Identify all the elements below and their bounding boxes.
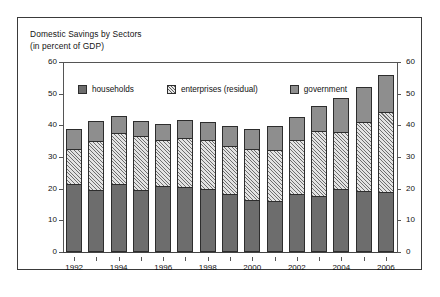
bar-segment-households — [155, 186, 171, 253]
y-axis-tick-right — [397, 62, 401, 63]
bar-2004 — [333, 98, 349, 252]
bar-2005 — [356, 87, 372, 252]
bar-segment-government — [222, 126, 238, 146]
bar-segment-households — [333, 189, 349, 252]
chart-legend: households enterprises (residual) govern… — [78, 85, 347, 94]
x-axis-tick-label: 2000 — [237, 263, 267, 272]
bar-segment-households — [66, 184, 82, 252]
chart-title: Domestic Savings by Sectors — [30, 28, 142, 40]
bar-segment-households — [111, 184, 127, 252]
legend-label-government: government — [304, 85, 347, 94]
bar-segment-government — [333, 98, 349, 132]
bar-1995 — [133, 121, 149, 252]
y-axis-tick-right — [397, 220, 401, 221]
bar-segment-enterprises — [311, 131, 327, 196]
bar-segment-households — [200, 189, 216, 252]
x-axis-tick — [119, 257, 120, 261]
bar-segment-enterprises — [333, 132, 349, 190]
bar-2001 — [267, 126, 283, 252]
y-axis-tick-right — [397, 189, 401, 190]
y-axis-tick-label-right: 20 — [406, 184, 428, 193]
bar-1999 — [222, 126, 238, 252]
x-axis-tick-label: 1992 — [59, 263, 89, 272]
y-axis-tick-label-left: 40 — [35, 120, 57, 129]
x-axis-tick-label: 2002 — [282, 263, 312, 272]
y-axis-tick-label-right: 0 — [406, 247, 428, 256]
bar-segment-government — [289, 117, 305, 140]
bar-2002 — [289, 117, 305, 252]
bar-segment-government — [244, 129, 260, 149]
bar-2003 — [311, 106, 327, 252]
bar-segment-government — [177, 120, 193, 138]
legend-swatch-households-icon — [78, 85, 87, 94]
legend-swatch-government-icon — [290, 85, 299, 94]
y-axis-tick-label-right: 60 — [406, 57, 428, 66]
y-axis-tick-label-left: 10 — [35, 215, 57, 224]
bar-segment-government — [200, 122, 216, 140]
bar-segment-households — [289, 194, 305, 252]
y-axis-tick-right — [397, 94, 401, 95]
bar-segment-households — [378, 192, 394, 252]
bar-segment-government — [133, 121, 149, 136]
x-axis-tick — [297, 257, 298, 261]
bar-segment-enterprises — [177, 138, 193, 187]
x-axis-tick — [163, 257, 164, 261]
chart-subtitle: (in percent of GDP) — [30, 40, 142, 52]
x-axis-tick — [96, 257, 97, 261]
y-axis-tick-label-right: 40 — [406, 120, 428, 129]
x-axis-tick — [230, 257, 231, 261]
bar-segment-government — [111, 116, 127, 133]
bar-segment-government — [66, 129, 82, 150]
x-axis-tick-label: 1996 — [148, 263, 178, 272]
bar-segment-enterprises — [155, 140, 171, 185]
legend-item-households: households — [78, 85, 134, 94]
bar-segment-enterprises — [378, 112, 394, 192]
x-axis-labels: 19921994199619982000200220042006 — [63, 257, 397, 273]
bar-segment-enterprises — [133, 136, 149, 190]
x-axis-tick — [319, 257, 320, 261]
y-axis-tick-label-right: 30 — [406, 152, 428, 161]
bar-segment-households — [88, 190, 104, 252]
bar-1994 — [111, 116, 127, 252]
y-axis-tick-label-left: 50 — [35, 89, 57, 98]
bar-segment-households — [222, 194, 238, 252]
y-axis-tick-label-right: 50 — [406, 89, 428, 98]
x-axis-tick-label: 2004 — [326, 263, 356, 272]
legend-item-government: government — [290, 85, 347, 94]
bar-segment-households — [244, 200, 260, 252]
bar-segment-government — [311, 106, 327, 131]
x-axis-tick — [275, 257, 276, 261]
bar-1998 — [200, 122, 216, 252]
x-axis-tick — [341, 257, 342, 261]
y-axis-tick-label-left: 20 — [35, 184, 57, 193]
bar-1997 — [177, 120, 193, 252]
x-axis-tick — [208, 257, 209, 261]
bar-1992 — [66, 129, 82, 252]
legend-label-households: households — [92, 85, 134, 94]
bar-segment-government — [267, 126, 283, 150]
bar-segment-households — [311, 196, 327, 252]
y-axis-tick-label-left: 30 — [35, 152, 57, 161]
chart-page: Domestic Savings by Sectors (in percent … — [0, 0, 440, 297]
y-axis-tick-left — [59, 252, 63, 253]
bar-2000 — [244, 129, 260, 252]
chart-title-block: Domestic Savings by Sectors (in percent … — [30, 28, 142, 52]
x-axis-tick — [141, 257, 142, 261]
x-axis-tick — [364, 257, 365, 261]
bar-segment-enterprises — [267, 150, 283, 201]
bar-segment-enterprises — [66, 149, 82, 184]
bar-segment-enterprises — [222, 146, 238, 194]
legend-item-enterprises: enterprises (residual) — [167, 85, 258, 94]
y-axis-tick-right — [397, 252, 401, 253]
x-axis-line — [63, 252, 398, 253]
bar-segment-households — [177, 187, 193, 252]
figure-frame: Domestic Savings by Sectors (in percent … — [17, 17, 422, 270]
bar-segment-government — [356, 87, 372, 122]
bar-1996 — [155, 124, 171, 252]
bar-segment-enterprises — [244, 149, 260, 200]
x-axis-tick-label: 2006 — [371, 263, 401, 272]
legend-label-enterprises: enterprises (residual) — [181, 85, 258, 94]
bar-segment-government — [88, 121, 104, 142]
x-axis-tick — [386, 257, 387, 261]
bar-segment-enterprises — [200, 140, 216, 188]
